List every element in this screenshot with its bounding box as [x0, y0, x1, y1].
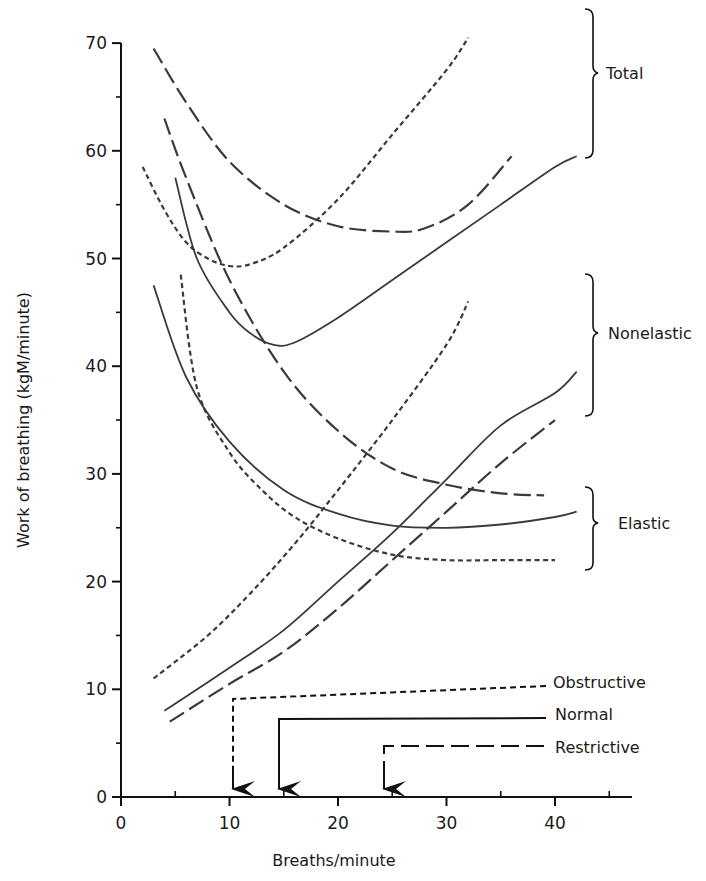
y-tick-label: 30: [85, 464, 107, 484]
curve-total-restrictive: [154, 49, 512, 232]
y-tick-label: 20: [85, 572, 107, 592]
curve-nonelastic-restrictive: [170, 420, 555, 721]
brace-label-elastic: Elastic: [618, 514, 670, 533]
brace-elastic-icon: [585, 487, 598, 570]
brace-label-nonelastic: Nonelastic: [608, 324, 692, 343]
y-tick-label: 0: [96, 787, 107, 807]
y-tick-label: 60: [85, 141, 107, 161]
y-ticks: 010203040506070: [85, 33, 121, 807]
legend-label-restrictive: Restrictive: [555, 738, 640, 757]
curve-total-obstructive: [143, 38, 469, 267]
x-axis-title: Breaths/minute: [272, 851, 395, 870]
x-tick-label: 20: [327, 813, 349, 833]
legend-label-obstructive: Obstructive: [553, 673, 646, 692]
y-tick-label: 50: [85, 249, 107, 269]
legend-label-normal: Normal: [555, 705, 613, 724]
restrictive-leader-line: [384, 746, 544, 770]
group-braces: Total Nonelastic Elastic: [585, 9, 692, 570]
curve-nonelastic-normal: [164, 372, 576, 711]
curve-elastic-obstructive: [181, 275, 555, 561]
legend: Obstructive Normal Restrictive: [233, 673, 646, 789]
normal-leader-line: [279, 718, 546, 770]
brace-total-icon: [585, 9, 598, 158]
brace-label-total: Total: [605, 64, 643, 83]
x-tick-label: 40: [544, 813, 566, 833]
x-tick-label: 0: [116, 813, 127, 833]
curve-elastic-normal: [154, 285, 577, 527]
curve-nonelastic-obstructive: [154, 302, 469, 679]
axes: 010203040506070 010203040: [85, 33, 632, 833]
brace-nonelastic-icon: [585, 274, 598, 416]
y-tick-label: 40: [85, 356, 107, 376]
x-tick-label: 30: [436, 813, 458, 833]
y-tick-label: 70: [85, 33, 107, 53]
x-tick-label: 10: [219, 813, 241, 833]
work-of-breathing-chart: 010203040506070 010203040 Breaths/minute…: [0, 0, 706, 881]
y-tick-label: 10: [85, 679, 107, 699]
y-axis-title: Work of breathing (kgM/minute): [14, 292, 33, 548]
curve-total-normal: [175, 156, 576, 346]
curves: [143, 38, 577, 722]
